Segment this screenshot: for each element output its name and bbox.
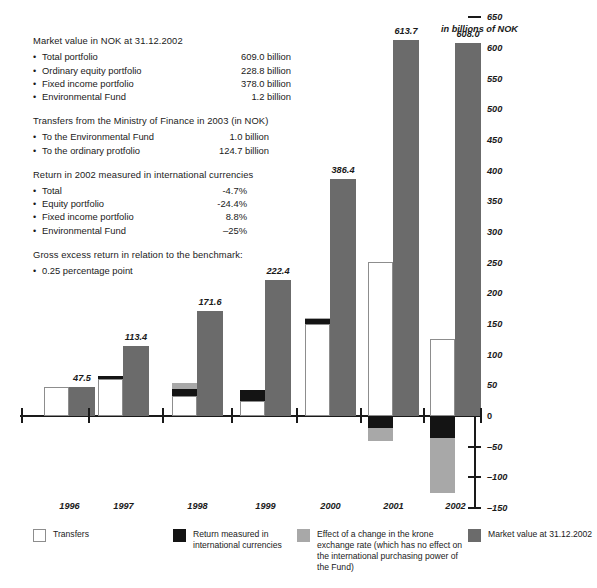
x-axis-separator-tick [231,408,233,423]
y-axis-tick-label: 600 [487,43,502,53]
y-axis-tick-label: 350 [487,196,502,206]
x-axis-label-2001: 2001 [364,501,424,511]
bar-return-1997 [98,376,123,380]
bar-market-value-1998 [197,311,223,416]
bar-krone-effect-2002 [430,438,455,493]
legend-label: Return measured in international currenc… [193,529,288,551]
x-axis-separator-tick [360,408,362,423]
bar-return-1998 [172,389,197,396]
bar-transfers-2000 [305,324,330,416]
bar-value-label-1997: 113.4 [106,332,166,342]
x-axis-separator-tick [88,408,90,423]
x-axis-label-1999: 1999 [236,501,296,511]
y-axis-tick-label: 650 [487,12,502,22]
x-axis-label-1997: 1997 [94,501,154,511]
bar-return-2001 [368,416,393,428]
y-axis-tick-label: –150 [487,503,507,513]
bar-value-label-1999: 222.4 [248,266,308,276]
legend-swatch-market-value-icon [468,529,481,542]
bar-value-label-1998: 171.6 [180,297,240,307]
y-axis-tick-label: –100 [487,472,507,482]
y-axis-tick-label: 100 [487,350,502,360]
y-axis-tick-label: 0 [487,411,492,421]
y-axis-tick [468,16,481,18]
bar-return-2002 [430,416,455,438]
bar-return-1999 [240,390,265,401]
y-axis-tick-label: –50 [487,442,502,452]
bar-krone-effect-2001 [368,428,393,441]
bar-value-label-2001: 613.7 [376,26,436,36]
y-axis-tick-label: 550 [487,74,502,84]
bar-market-value-1996 [69,387,95,416]
y-axis-tick-label: 400 [487,166,502,176]
legend-swatch-return-icon [173,529,186,542]
y-axis-tick-label: 50 [487,380,497,390]
legend-item-krone-effect: Effect of a change in the krone exchange… [297,529,467,573]
y-axis-tick-label: 450 [487,135,502,145]
legend-item-transfers: Transfers [33,529,143,542]
bar-transfers-1996 [44,387,69,416]
bar-transfers-1997 [98,379,123,416]
bar-transfers-2002 [430,339,455,416]
y-axis-tick [468,446,481,448]
legend-swatch-krone-icon [297,529,310,542]
x-axis-label-2000: 2000 [301,501,361,511]
bar-krone-effect-1998 [172,383,197,389]
bar-market-value-2001 [393,40,419,416]
bar-transfers-1998 [172,396,197,416]
legend-item-market-value: Market value at 31.12.2002 [468,529,597,542]
bar-return-2000 [305,319,330,324]
x-axis-separator-tick [480,408,482,423]
bar-market-value-1999 [265,280,291,416]
legend-item-return: Return measured in international currenc… [173,529,293,551]
bar-krone-effect-2000 [305,318,330,319]
bar-market-value-2000 [330,179,356,416]
x-axis-label-1996: 1996 [40,501,100,511]
x-axis-label-2002: 2002 [426,501,486,511]
bar-market-value-1997 [123,346,149,416]
x-axis-label-1998: 1998 [168,501,228,511]
y-axis-tick-label: 150 [487,319,502,329]
legend-label: Market value at 31.12.2002 [488,529,592,540]
y-axis-tick-label: 250 [487,258,502,268]
x-axis-separator-tick [423,408,425,423]
bar-market-value-2002 [455,43,481,416]
x-axis-separator-tick [162,408,164,423]
y-axis-tick-label: 300 [487,227,502,237]
y-axis-tick [468,476,481,478]
y-axis-tick-label: 500 [487,104,502,114]
bar-value-label-2002: 608.0 [438,29,498,39]
bar-value-label-2000: 386.4 [313,165,373,175]
y-axis-tick-label: 200 [487,288,502,298]
bar-transfers-1999 [240,401,265,416]
x-axis-start-tick [21,408,23,423]
x-axis-separator-tick [296,408,298,423]
legend-label: Transfers [53,529,89,540]
legend-swatch-transfers-icon [33,529,46,542]
legend-label: Effect of a change in the krone exchange… [317,529,465,573]
bar-transfers-2001 [368,262,393,416]
